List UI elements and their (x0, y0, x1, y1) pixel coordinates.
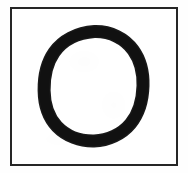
scan-card: A hand-drawn circle outline centered wit… (0, 0, 188, 173)
circle-stroke-inner-pass (44, 32, 143, 141)
hand-drawn-circle (0, 0, 188, 173)
